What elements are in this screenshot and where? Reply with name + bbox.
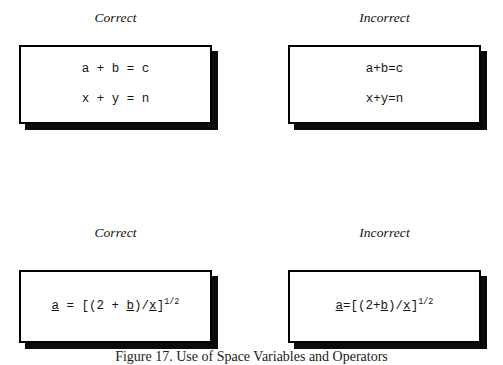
panel-caption-top-right: Incorrect	[288, 10, 481, 26]
panel-caption-top-left: Correct	[19, 10, 212, 26]
code-segment-var: x	[149, 299, 157, 313]
example-box-top-left: a + b = c x + y = n	[19, 45, 212, 124]
code-segment-var: b	[127, 299, 135, 313]
code-segment: a+b=c	[366, 62, 404, 76]
code-segment-superscript: 1/2	[418, 296, 433, 306]
code-segment: x+y=n	[366, 92, 404, 106]
panel-caption-bottom-left: Correct	[19, 225, 212, 241]
code-line: x+y=n	[366, 93, 404, 107]
example-box-top-right: a+b=c x+y=n	[288, 45, 481, 124]
code-line: a = [(2 + b)/x]1/2	[52, 300, 180, 314]
example-box-bottom-left: a = [(2 + b)/x]1/2	[19, 270, 212, 343]
code-segment: ]	[411, 299, 419, 313]
code-segment: )/	[388, 299, 403, 313]
code-segment-var: a	[336, 299, 344, 313]
code-segment: a + b = c	[82, 62, 150, 76]
example-box-bottom-right: a=[(2+b)/x]1/2	[288, 270, 481, 343]
figure-caption: Figure 17. Use of Space Variables and Op…	[0, 349, 503, 365]
code-segment-var: x	[403, 299, 411, 313]
panel-caption-bottom-right: Incorrect	[288, 225, 481, 241]
code-line: a=[(2+b)/x]1/2	[336, 300, 434, 314]
code-segment-var: b	[381, 299, 389, 313]
code-segment: )/	[134, 299, 149, 313]
code-line: x + y = n	[82, 93, 150, 107]
code-line: a+b=c	[366, 63, 404, 77]
code-line: a + b = c	[82, 63, 150, 77]
code-segment-var: a	[52, 299, 60, 313]
code-segment: x + y = n	[82, 92, 150, 106]
code-segment: ]	[157, 299, 165, 313]
code-segment: =[(2+	[343, 299, 381, 313]
code-segment: = [(2 +	[59, 299, 127, 313]
code-segment-superscript: 1/2	[164, 296, 179, 306]
